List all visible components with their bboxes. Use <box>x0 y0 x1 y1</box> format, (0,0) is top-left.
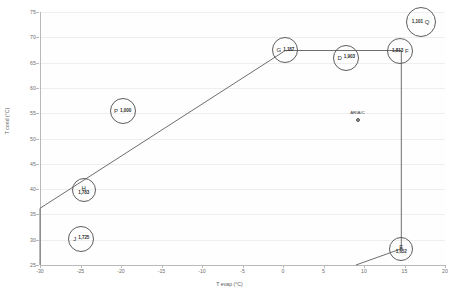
x-tick-label: -20 <box>108 268 134 274</box>
y-tick-label: 35 <box>2 211 36 217</box>
x-tick-mark <box>40 265 41 268</box>
y-tick-label: 65 <box>2 60 36 66</box>
y-tick-label: 30 <box>2 237 36 243</box>
gridline <box>40 37 445 38</box>
x-tick-mark <box>202 265 203 268</box>
bubble-value: 1,101 <box>412 20 423 25</box>
x-tick-mark <box>81 265 82 268</box>
bubble-letter: G <box>277 47 282 53</box>
y-tick-label: 70 <box>2 34 36 40</box>
bubble-letter: Q <box>425 19 430 25</box>
bubble-h[interactable]: H1,783 <box>72 178 96 202</box>
x-tick-mark <box>283 265 284 268</box>
x-tick-label: 10 <box>351 268 377 274</box>
x-tick-label: 15 <box>392 268 418 274</box>
gridline <box>40 12 445 13</box>
x-tick-mark <box>121 265 122 268</box>
data-point-marker[interactable] <box>356 118 360 122</box>
gridline <box>40 63 445 64</box>
y-tick-label: 75 <box>2 9 36 15</box>
x-tick-mark <box>405 265 406 268</box>
bubble-j[interactable]: J1,725 <box>68 226 94 252</box>
x-tick-label: -5 <box>230 268 256 274</box>
bubble-value: 1,813 <box>392 49 403 54</box>
x-tick-label: 20 <box>432 268 458 274</box>
x-axis-title: T evap (°C) <box>0 281 459 287</box>
gridline <box>40 88 445 89</box>
x-tick-mark <box>445 265 446 268</box>
x-tick-label: -30 <box>27 268 53 274</box>
gridline <box>40 164 445 165</box>
x-tick-mark <box>364 265 365 268</box>
y-axis-title: T cond (°C) <box>4 76 10 166</box>
gridline <box>40 240 445 241</box>
bubble-p[interactable]: P1,000 <box>110 98 136 124</box>
x-tick-mark <box>243 265 244 268</box>
x-tick-label: 5 <box>311 268 337 274</box>
bubble-value: 1,000 <box>120 109 131 114</box>
bubble-letter: D <box>338 55 342 61</box>
bubble-value: 1,783 <box>78 191 89 196</box>
bubble-letter: F <box>405 48 409 54</box>
y-axis-line <box>40 12 41 265</box>
gridline <box>40 189 445 190</box>
x-tick-label: 0 <box>270 268 296 274</box>
x-tick-label: -15 <box>149 268 175 274</box>
bubble-letter: P <box>114 108 118 114</box>
gridline <box>40 214 445 215</box>
gridline <box>40 113 445 114</box>
y-tick-label: 40 <box>2 186 36 192</box>
x-tick-label: -25 <box>68 268 94 274</box>
bubble-value: 1,725 <box>78 236 89 241</box>
data-point-label: ARIA/C <box>350 110 365 115</box>
x-tick-mark <box>324 265 325 268</box>
bubble-value: 1,652 <box>396 250 407 255</box>
bubble-chart: 2530354045505560657075 -30-25-20-15-10-5… <box>0 0 459 294</box>
x-tick-label: -10 <box>189 268 215 274</box>
bubble-value: 1,187 <box>283 48 294 53</box>
bubble-d[interactable]: D1,903 <box>333 45 359 71</box>
x-tick-mark <box>162 265 163 268</box>
bubble-e[interactable]: E1,652 <box>389 237 413 261</box>
bubble-q[interactable]: 1,101Q <box>406 7 436 37</box>
bubble-letter: J <box>73 236 76 242</box>
bubble-value: 1,903 <box>344 55 355 60</box>
gridline <box>40 139 445 140</box>
